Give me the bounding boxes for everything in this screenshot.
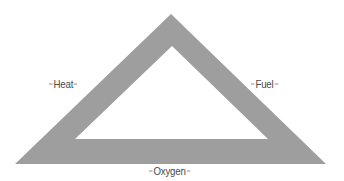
leader-line [49, 83, 53, 85]
fire-triangle-diagram: Heat Fuel Oxygen [0, 0, 344, 181]
label-fuel-text: Fuel [255, 78, 273, 90]
leader-line [149, 170, 153, 172]
leader-line [251, 83, 255, 85]
label-heat-text: Heat [53, 78, 73, 90]
label-oxygen-text: Oxygen [153, 165, 185, 177]
leader-line [74, 83, 78, 85]
leader-line [187, 170, 191, 172]
label-fuel: Fuel [251, 78, 278, 90]
leader-line [274, 83, 278, 85]
triangle-shape [0, 0, 344, 181]
label-heat: Heat [49, 78, 78, 90]
label-oxygen: Oxygen [149, 165, 190, 177]
